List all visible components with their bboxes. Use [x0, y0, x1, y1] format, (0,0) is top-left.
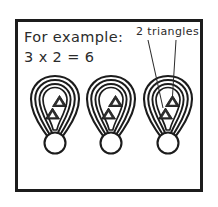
equation-text: 3 x 2 = 6	[24, 48, 94, 66]
example-heading: For example:	[24, 28, 123, 46]
callout-label: 2 triangles	[136, 25, 199, 38]
figure-canvas: For example: 3 x 2 = 6 2 triangles	[0, 0, 218, 207]
